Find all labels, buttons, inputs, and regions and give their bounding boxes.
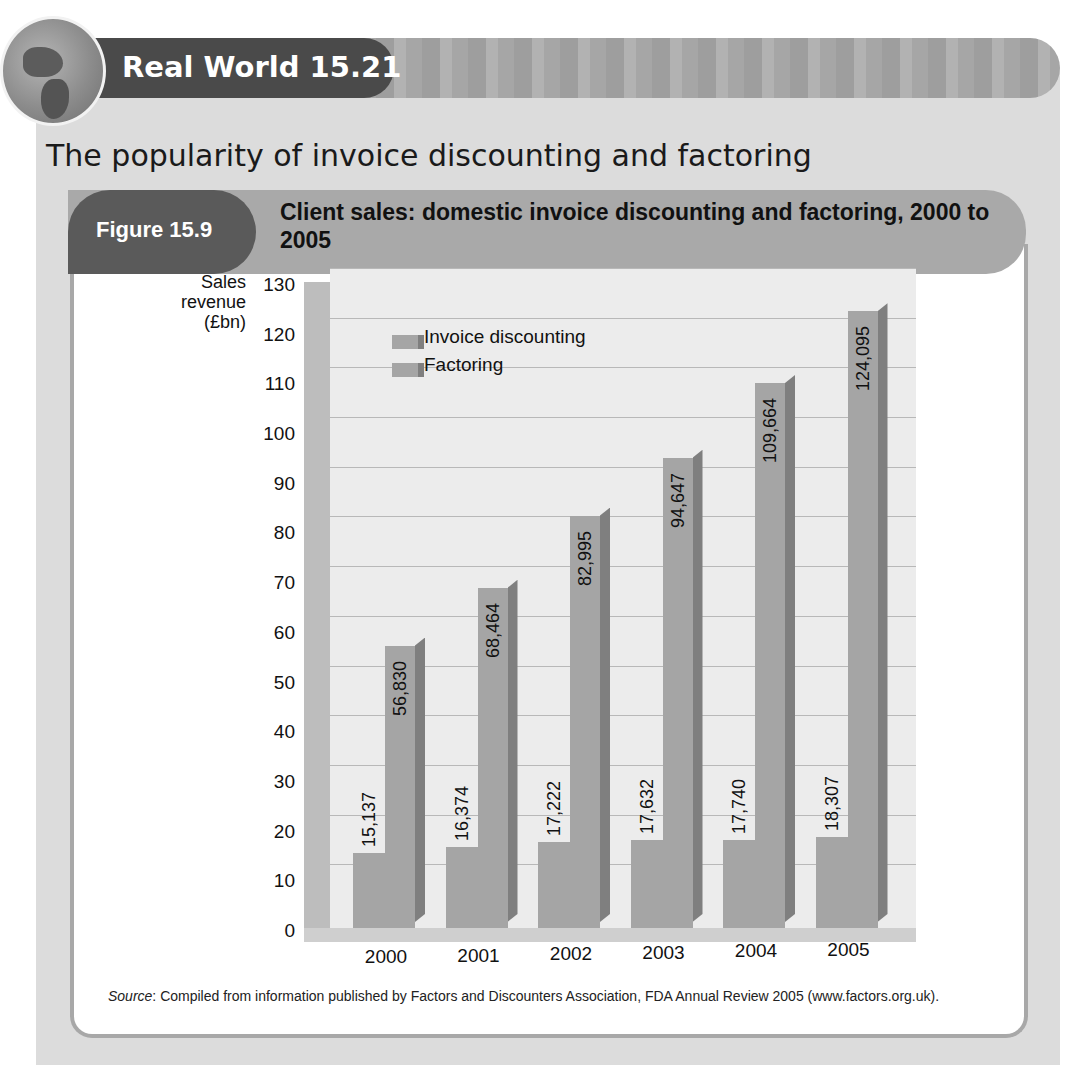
data-label-invoice: 16,374 [452,786,473,841]
bar-invoice-discounting [538,842,570,928]
gridline [330,268,916,269]
y-tick-label: 30 [255,771,295,793]
x-tick-label: 2004 [721,940,791,962]
y-tick-label: 90 [255,473,295,495]
bar-factoring [848,311,878,928]
bar-side-face [693,450,703,922]
y-tick-label: 20 [255,821,295,843]
data-label-factoring: 94,647 [668,473,689,528]
y-tick-label: 60 [255,622,295,644]
data-label-factoring: 124,095 [853,326,874,391]
y-tick-label: 70 [255,572,295,594]
bar-factoring [663,458,693,928]
y-tick-label: 100 [255,423,295,445]
figure-title: Client sales: domestic invoice discounti… [280,198,1000,254]
x-tick-label: 2001 [444,945,514,967]
y-tick-label: 0 [255,920,295,942]
data-label-factoring: 82,995 [575,531,596,586]
bar-side-face [600,508,610,922]
x-tick-label: 2000 [351,946,421,968]
data-label-invoice: 17,222 [544,781,565,836]
data-label-factoring: 68,464 [483,603,504,658]
y-tick-label: 120 [255,324,295,346]
globe-icon [0,16,106,126]
bar-side-face [508,580,518,922]
legend-label-invoice: Invoice discounting [424,326,586,348]
y-tick-label: 10 [255,870,295,892]
legend-label-factoring: Factoring [424,354,503,376]
y-tick-label: 40 [255,721,295,743]
gridline [330,566,916,567]
page-heading: The popularity of invoice discounting an… [46,138,812,173]
y-tick-label: 110 [255,373,295,395]
chart-side-wall [304,282,330,942]
bar-side-face [878,303,888,922]
bar-invoice-discounting [816,837,848,928]
legend-swatch-factoring [392,363,424,377]
gridline [330,417,916,418]
data-label-invoice: 17,740 [729,779,750,834]
bar-invoice-discounting [353,853,385,928]
bar-side-face [785,375,795,922]
gridline [330,516,916,517]
bar-invoice-discounting [723,840,755,928]
bar-invoice-discounting [631,840,663,928]
data-label-invoice: 15,137 [359,792,380,847]
source-note: Source: Compiled from information publis… [108,986,988,1006]
data-label-factoring: 56,830 [390,661,411,716]
y-tick-label: 130 [255,274,295,296]
y-axis-label: Sales revenue (£bn) [170,272,246,332]
data-label-invoice: 18,307 [822,776,843,831]
y-tick-label: 50 [255,672,295,694]
bar-invoice-discounting [446,847,478,928]
x-tick-label: 2003 [629,942,699,964]
figure-label: Figure 15.9 [96,217,212,243]
gridline [330,318,916,319]
data-label-factoring: 109,664 [760,398,781,463]
legend-swatch-invoice [392,335,424,349]
x-tick-label: 2002 [536,943,606,965]
bar-factoring [755,383,785,928]
data-label-invoice: 17,632 [637,779,658,834]
y-tick-label: 80 [255,522,295,544]
bar-side-face [415,638,425,922]
banner-title: Real World 15.21 [122,50,401,84]
gridline [330,616,916,617]
gridline [330,467,916,468]
x-tick-label: 2005 [814,939,884,961]
